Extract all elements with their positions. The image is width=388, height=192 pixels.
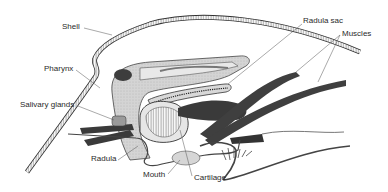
label-shell: Shell [62, 22, 80, 32]
label-muscles: Muscles [342, 29, 371, 39]
label-cartilage: Cartilage [194, 173, 226, 183]
label-salivary-glands: Salivary glands [20, 100, 74, 110]
buccal-mass [114, 69, 132, 81]
salivary-glands [112, 116, 126, 126]
label-radula: Radula [91, 154, 116, 164]
label-radula-sac: Radula sac [303, 16, 343, 26]
label-mouth: Mouth [143, 170, 165, 180]
radula-anatomy-diagram [0, 0, 388, 192]
label-pharynx: Pharynx [44, 64, 73, 74]
